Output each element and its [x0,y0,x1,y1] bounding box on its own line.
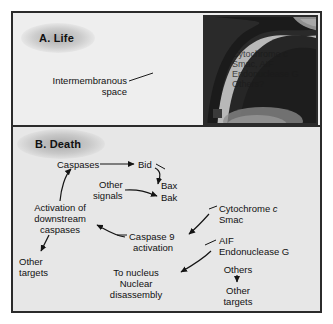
inset-content-smac-aif: Smac, AIF [232,59,274,70]
node-caspase9-line1: Caspase 9 [129,231,174,242]
node-other-targets-left-line1: Other [19,256,43,267]
panel-b-label: B. Death [35,138,81,150]
inset-content-endonuclease-g: Endonuclease G [232,69,299,80]
node-bid: Bid [138,159,152,170]
node-caspases: Caspases [57,159,99,170]
node-smac: Smac [219,214,243,225]
node-activation-line3: caspases [17,224,103,235]
node-activation-line2: downstream [17,213,103,224]
panel-a-life: A. Life Intermembranous space [13,13,320,127]
cytochrome-c-text: Cytochrome [219,203,273,214]
node-endonuclease-g: Endonuclease G [219,246,289,257]
intermembranous-space-label-line1: Intermembranous [21,75,127,86]
mitochondrion-micrograph-inset: Cytochrome c Smac, AIF Endonuclease G Ot… [203,15,318,125]
node-other-signals-line1: Other [99,179,123,190]
figure-frame: A. Life Intermembranous space [11,11,322,313]
node-other-targets-left-line2: targets [19,267,48,278]
node-cytochrome-c: Cytochrome c [219,203,278,214]
node-bak: Bak [161,192,177,203]
node-other-signals-line2: signals [93,190,123,201]
node-to-nucleus-line1: To nucleus [95,267,177,278]
inset-content-cytochrome-c: Cytochrome c [232,49,288,60]
cytochrome-c-italic: c [273,203,278,214]
node-others: Others [211,264,265,275]
node-activation-line1: Activation of [17,202,103,213]
panel-b-death: B. Death Caspases Bid Bax Bak Other sign… [13,127,320,311]
inset-content-others: Others? [232,79,264,90]
node-to-nucleus-line3: disassembly [89,289,183,300]
node-caspase9-line2: activation [119,242,187,253]
apoptosis-figure: A. Life Intermembranous space [0,0,333,324]
node-aif: AIF [219,235,234,246]
node-other-targets-right-line2: targets [211,296,265,307]
panel-a-label: A. Life [39,32,74,44]
node-to-nucleus-line2: Nuclear [95,278,177,289]
node-other-targets-right-line1: Other [211,285,265,296]
node-bax: Bax [161,180,177,191]
intermembranous-space-label-line2: space [21,86,127,97]
